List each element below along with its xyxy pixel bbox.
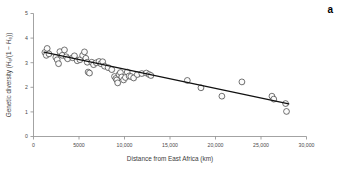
- x-tick-label: 20,000: [208, 142, 224, 148]
- y-tick-label: 2: [25, 84, 28, 90]
- data-markers: [42, 46, 290, 115]
- x-axis-tick-labels: 0 5000 10,000 15,000 20,000 25,000 30,00…: [32, 142, 314, 148]
- data-point: [219, 93, 225, 99]
- y-axis-ticks: [31, 14, 34, 137]
- y-axis-title: Genetic diversity (He/(1 − He)): [5, 33, 13, 118]
- y-axis-tick-labels: 0 1 2 3 4 5: [25, 10, 28, 139]
- x-axis-ticks: [34, 137, 307, 140]
- y-tick-label: 0: [25, 133, 28, 139]
- data-point: [284, 109, 290, 115]
- x-tick-label: 30,000: [299, 142, 315, 148]
- x-tick-label: 0: [32, 142, 35, 148]
- x-axis-title: Distance from East Africa (km): [127, 155, 213, 163]
- y-tick-label: 3: [25, 60, 28, 66]
- x-tick-label: 10,000: [117, 142, 133, 148]
- data-point: [56, 61, 62, 67]
- x-tick-label: 15,000: [162, 142, 178, 148]
- regression-line: [44, 52, 289, 104]
- y-tick-label: 4: [25, 35, 28, 41]
- x-tick-label: 25,000: [253, 142, 269, 148]
- scatter-plot: 0 1 2 3 4 5 0 5000 10,000 15,000 20,000 …: [0, 0, 341, 170]
- data-point: [115, 80, 121, 86]
- data-point: [239, 79, 245, 85]
- x-tick-label: 5000: [73, 142, 85, 148]
- figure-panel: 0 1 2 3 4 5 0 5000 10,000 15,000 20,000 …: [0, 0, 341, 170]
- data-point: [62, 47, 68, 53]
- data-point: [109, 67, 115, 73]
- y-tick-label: 5: [25, 10, 28, 16]
- data-point: [82, 49, 88, 55]
- y-tick-label: 1: [25, 109, 28, 115]
- panel-label: a: [327, 4, 333, 15]
- data-point: [87, 70, 93, 76]
